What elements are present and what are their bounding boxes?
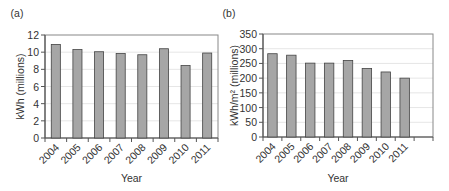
x-tick-label: 2009	[144, 141, 169, 166]
x-tick-label: 2010	[366, 140, 391, 165]
bar-2009	[159, 49, 168, 138]
x-tick-label: 2008	[123, 141, 148, 166]
y-tick-label: 350	[239, 28, 257, 40]
bar-2008	[343, 60, 352, 137]
y-axis-label: kWh/m² (millions)	[228, 45, 240, 126]
bar-2007	[324, 63, 333, 137]
y-tick-label: 0	[33, 132, 39, 144]
y-axis-label: kWh (millions)	[14, 54, 26, 120]
x-tick-label: 2006	[79, 141, 104, 166]
figure: 0246810122004200520062007200820092010201…	[0, 0, 449, 191]
y-tick-label: 10	[27, 46, 39, 58]
x-tick-label: 2011	[188, 141, 213, 166]
x-tick-label: 2007	[101, 141, 126, 166]
bar-2004	[268, 54, 277, 137]
y-tick-label: 12	[27, 29, 39, 41]
y-tick-label: 4	[33, 98, 39, 110]
y-tick-label: 150	[239, 87, 257, 99]
bar-2011	[203, 53, 212, 138]
y-tick-label: 100	[239, 102, 257, 114]
x-tick-label: 2009	[347, 140, 372, 165]
bar-2007	[116, 53, 125, 138]
x-tick-label: 2008	[328, 140, 353, 165]
x-tick-label: 2005	[58, 141, 83, 166]
x-tick-label: 2011	[386, 140, 411, 165]
bar-2005	[73, 50, 82, 138]
bar-2005	[287, 55, 296, 137]
panel-label: (b)	[223, 7, 236, 19]
x-tick-label: 2004	[36, 141, 61, 166]
bar-2011	[400, 78, 409, 137]
bar-2006	[306, 63, 315, 137]
bar-2006	[95, 52, 104, 138]
y-tick-label: 8	[33, 63, 39, 75]
y-tick-label: 250	[239, 57, 257, 69]
x-tick-label: 2007	[310, 140, 335, 165]
chart-panel-a: 0246810122004200520062007200820092010201…	[11, 7, 218, 184]
x-tick-label: 2010	[166, 141, 191, 166]
x-tick-label: 2006	[291, 140, 316, 165]
y-tick-label: 50	[245, 116, 257, 128]
y-tick-label: 300	[239, 43, 257, 55]
x-tick-label: 2005	[272, 140, 297, 165]
bar-2010	[181, 65, 190, 138]
x-axis-label: Year	[327, 172, 349, 184]
bar-2008	[138, 55, 147, 138]
x-axis-label: Year	[121, 172, 143, 184]
bar-2010	[381, 72, 390, 137]
y-tick-label: 200	[239, 72, 257, 84]
y-tick-label: 6	[33, 81, 39, 93]
bar-2004	[51, 44, 60, 138]
x-tick-label: 2004	[253, 140, 278, 165]
bar-2009	[362, 68, 371, 137]
y-tick-label: 2	[33, 115, 39, 127]
panel-label: (a)	[11, 7, 24, 19]
chart-panel-b: 0501001502002503003502004200520062007200…	[223, 7, 433, 184]
y-tick-label: 0	[251, 131, 257, 143]
